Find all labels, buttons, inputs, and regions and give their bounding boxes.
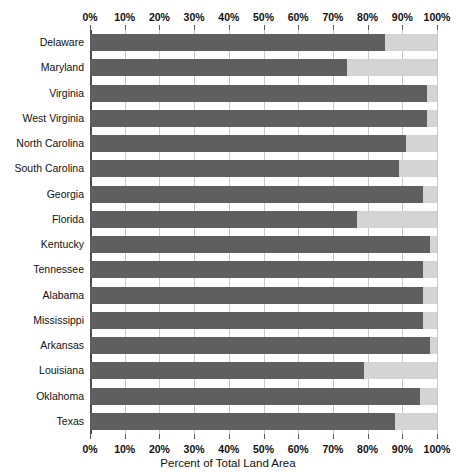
x-axis-labels-top: 0%10%20%30%40%50%60%70%80%90%100% <box>0 11 456 25</box>
bar-segment-remainder <box>420 388 437 405</box>
bar-row <box>90 30 437 55</box>
bar-row <box>90 358 437 383</box>
x-tick-label: 10% <box>114 443 135 455</box>
bar-segment-primary <box>90 388 420 405</box>
axis-tick <box>437 25 438 30</box>
y-axis-label: Tennessee <box>0 261 84 278</box>
stacked-bar <box>90 236 437 253</box>
x-tick-label: 50% <box>253 11 274 23</box>
x-tick-label: 40% <box>218 443 239 455</box>
bar-row <box>90 409 437 434</box>
x-tick-label: 30% <box>184 11 205 23</box>
axis-tick <box>298 434 299 439</box>
stacked-bar <box>90 413 437 430</box>
x-tick-label: 0% <box>82 11 97 23</box>
bar-segment-remainder <box>430 236 437 253</box>
x-tick-label: 80% <box>357 11 378 23</box>
y-axis-label: Oklahoma <box>0 388 84 405</box>
bar-segment-primary <box>90 59 347 76</box>
bar-segment-remainder <box>399 160 437 177</box>
bar-row <box>90 333 437 358</box>
y-axis-label: Maryland <box>0 59 84 76</box>
y-axis-label: Florida <box>0 211 84 228</box>
stacked-bar <box>90 261 437 278</box>
y-axis-label: Arkansas <box>0 337 84 354</box>
y-axis-label: Kentucky <box>0 236 84 253</box>
bar-row <box>90 308 437 333</box>
y-axis-label: Alabama <box>0 287 84 304</box>
x-tick-label: 60% <box>288 443 309 455</box>
stacked-bar <box>90 34 437 51</box>
x-tick-label: 0% <box>82 443 97 455</box>
x-tick-label: 70% <box>322 443 343 455</box>
x-axis-labels-bottom: 0%10%20%30%40%50%60%70%80%90%100% <box>0 443 456 457</box>
x-tick-label: 20% <box>149 11 170 23</box>
axis-tick <box>90 434 91 439</box>
chart-container: 0%10%20%30%40%50%60%70%80%90%100% 0%10%2… <box>0 0 456 475</box>
bar-segment-primary <box>90 135 406 152</box>
bar-segment-primary <box>90 312 423 329</box>
axis-tick <box>229 434 230 439</box>
bar-segment-remainder <box>423 312 437 329</box>
axis-tick <box>333 434 334 439</box>
y-axis-label: Texas <box>0 413 84 430</box>
bar-row <box>90 257 437 282</box>
bar-row <box>90 283 437 308</box>
stacked-bar <box>90 337 437 354</box>
bar-segment-primary <box>90 362 364 379</box>
bar-segment-primary <box>90 337 430 354</box>
bar-segment-primary <box>90 186 423 203</box>
y-axis-label: South Carolina <box>0 160 84 177</box>
stacked-bar <box>90 388 437 405</box>
axis-tick <box>264 434 265 439</box>
axis-tick <box>368 434 369 439</box>
bar-segment-primary <box>90 211 357 228</box>
bar-row <box>90 232 437 257</box>
y-axis-label: Louisiana <box>0 362 84 379</box>
stacked-bar <box>90 287 437 304</box>
y-axis-label: Delaware <box>0 34 84 51</box>
axis-tick <box>125 434 126 439</box>
bar-segment-primary <box>90 413 395 430</box>
bar-segment-remainder <box>357 211 437 228</box>
bar-row <box>90 81 437 106</box>
bar-segment-primary <box>90 34 385 51</box>
y-axis-label: West Virginia <box>0 110 84 127</box>
axis-tick <box>402 434 403 439</box>
stacked-bar <box>90 85 437 102</box>
gridline <box>437 30 438 434</box>
bar-segment-primary <box>90 85 427 102</box>
x-tick-label: 10% <box>114 11 135 23</box>
bar-row <box>90 384 437 409</box>
bar-segment-remainder <box>427 85 437 102</box>
bar-segment-remainder <box>423 287 437 304</box>
stacked-bar <box>90 160 437 177</box>
bar-segment-remainder <box>406 135 437 152</box>
stacked-bar <box>90 362 437 379</box>
bar-segment-remainder <box>395 413 437 430</box>
bar-segment-remainder <box>423 186 437 203</box>
plot-area <box>90 30 437 434</box>
x-tick-label: 40% <box>218 11 239 23</box>
x-tick-label: 60% <box>288 11 309 23</box>
stacked-bar <box>90 186 437 203</box>
x-tick-label: 30% <box>184 443 205 455</box>
bar-segment-primary <box>90 110 427 127</box>
bar-segment-primary <box>90 236 430 253</box>
stacked-bar <box>90 312 437 329</box>
bar-segment-remainder <box>423 261 437 278</box>
y-axis-label: North Carolina <box>0 135 84 152</box>
axis-tick <box>159 434 160 439</box>
bar-segment-remainder <box>427 110 437 127</box>
bar-segment-remainder <box>430 337 437 354</box>
bar-row <box>90 156 437 181</box>
y-axis-label: Virginia <box>0 85 84 102</box>
stacked-bar <box>90 110 437 127</box>
bar-segment-remainder <box>385 34 437 51</box>
bar-segment-remainder <box>347 59 437 76</box>
stacked-bar <box>90 135 437 152</box>
y-axis-label: Mississippi <box>0 312 84 329</box>
x-tick-label: 90% <box>392 11 413 23</box>
y-axis-label: Georgia <box>0 186 84 203</box>
x-tick-label: 100% <box>424 443 451 455</box>
